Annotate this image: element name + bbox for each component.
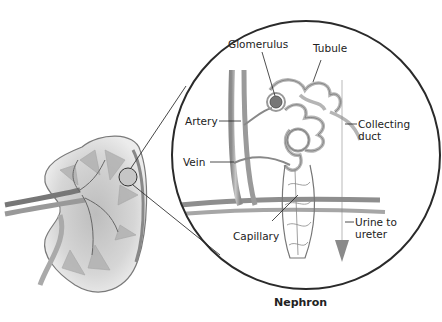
kidney-illustration [5,136,147,292]
nephron-diagram [0,0,442,322]
label-collecting-duct-1: Collecting [358,118,410,130]
label-tubule: Tubule [313,42,347,54]
zoom-line-top [131,86,186,168]
label-capillary: Capillary [233,230,279,242]
label-artery: Artery [185,115,218,127]
glomerulus [270,96,282,108]
label-urine-2: ureter [355,228,387,240]
urine-flow-arrow-icon [335,240,349,262]
magnified-region-marker [119,168,137,186]
label-glomerulus: Glomerulus [228,38,288,50]
label-collecting-duct-2: duct [358,130,381,142]
diagram-caption: Nephron [274,296,327,309]
label-urine-1: Urine to [355,216,397,228]
label-vein: Vein [183,156,205,168]
